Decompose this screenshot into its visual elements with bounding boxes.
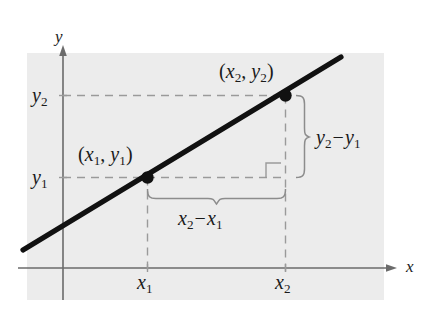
rise-delta-label: y2−y1: [316, 127, 361, 150]
rise-subtrahend-main: y: [345, 126, 354, 148]
y-axis-label: y: [55, 28, 63, 45]
x2-tick-label-main: x: [275, 271, 284, 293]
x-axis-label: x: [406, 258, 414, 275]
point-2-close-paren: ): [267, 60, 274, 82]
point-1-comma: ,: [100, 143, 105, 165]
x1-tick-label: x1: [137, 272, 153, 295]
x2-tick-label: x2: [275, 272, 291, 295]
data-point-1: [141, 171, 153, 183]
point-1-open-paren: (: [78, 143, 85, 165]
run-minuend-main: x: [178, 207, 187, 229]
point-2-comma: ,: [241, 60, 246, 82]
run-operator: −: [194, 207, 207, 229]
point-1-x-main: x: [85, 143, 94, 165]
y2-tick-label: y2: [32, 85, 48, 108]
y2-tick-label-sub: 2: [41, 94, 48, 109]
y2-tick-label-main: y: [32, 84, 41, 106]
x2-tick-label-sub: 2: [284, 281, 291, 296]
rise-minuend-sub: 2: [325, 136, 332, 151]
point-2-x-main: x: [226, 60, 235, 82]
point-2-open-paren: (: [219, 60, 226, 82]
plot-panel: [27, 53, 384, 300]
y1-tick-label-sub: 1: [41, 176, 48, 191]
slope-diagram: y x y2 y1 x1 x2 (x1, y1) (x2, y2) x2−x1 …: [0, 0, 435, 320]
point-1-y-sub: 1: [119, 153, 126, 168]
rise-subtrahend-sub: 1: [354, 136, 361, 151]
y1-tick-label: y1: [32, 167, 48, 190]
y-axis-arrowhead: [59, 45, 67, 56]
rise-operator: −: [332, 126, 345, 148]
y1-tick-label-main: y: [32, 166, 41, 188]
point-1-y-main: y: [110, 143, 119, 165]
run-delta-label: x2−x1: [178, 208, 223, 231]
x1-tick-label-sub: 1: [146, 281, 153, 296]
point-1-close-paren: ): [126, 143, 133, 165]
run-subtrahend-main: x: [207, 207, 216, 229]
x-axis-arrowhead: [386, 264, 397, 272]
rise-minuend-main: y: [316, 126, 325, 148]
data-point-2: [279, 89, 291, 101]
x1-tick-label-main: x: [137, 271, 146, 293]
diagram-canvas: [0, 0, 435, 320]
run-subtrahend-sub: 1: [216, 217, 223, 232]
point-2-y-sub: 2: [260, 70, 267, 85]
run-minuend-sub: 2: [187, 217, 194, 232]
point-2-label: (x2, y2): [219, 61, 274, 84]
point-2-y-main: y: [251, 60, 260, 82]
point-1-label: (x1, y1): [78, 144, 133, 167]
